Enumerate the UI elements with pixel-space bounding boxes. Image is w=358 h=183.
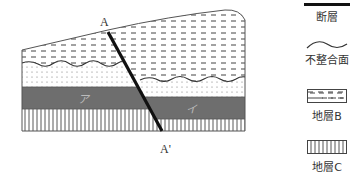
legend-label-layer-b: 地層B bbox=[296, 111, 358, 123]
legend-item-layer-c: 地層C bbox=[296, 140, 358, 174]
layer-b-swatch-icon bbox=[307, 89, 347, 103]
label-a: A bbox=[100, 15, 109, 29]
label-layer-i: イ bbox=[186, 103, 198, 116]
label-a-prime: A' bbox=[160, 142, 171, 156]
layer-c-left bbox=[0, 109, 296, 131]
legend-label-layer-c: 地層C bbox=[296, 162, 358, 174]
legend-item-unconformity: 不整合面 bbox=[296, 38, 358, 67]
legend-item-fault: 断層 bbox=[296, 3, 358, 24]
legend: 断層 不整合面 地層B 地層C bbox=[296, 0, 358, 183]
layer-c-swatch-icon bbox=[307, 140, 347, 154]
legend-label-fault: 断層 bbox=[296, 12, 358, 24]
fault-symbol-icon bbox=[304, 3, 350, 6]
geologic-cross-section: A A' ア イ bbox=[0, 0, 296, 183]
legend-label-unconformity: 不整合面 bbox=[296, 55, 358, 67]
legend-item-layer-b: 地層B bbox=[296, 89, 358, 123]
wavy-line-icon bbox=[305, 38, 349, 52]
